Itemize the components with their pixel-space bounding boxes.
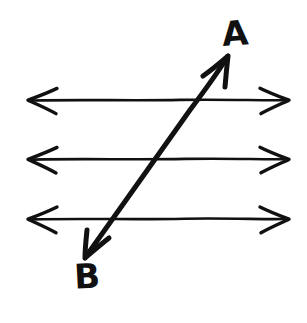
bottom-parallel-line [28, 207, 289, 233]
label-b: B [73, 258, 101, 293]
top-parallel-line-shaft [33, 100, 284, 101]
middle-parallel-line-shaft [33, 159, 284, 160]
top-parallel-line [28, 88, 289, 113]
figure-root: A B [0, 0, 307, 323]
geometry-diagram [0, 0, 307, 323]
transversal-line-shaft [87, 59, 226, 255]
transversal-line [85, 56, 228, 258]
bottom-parallel-line-shaft [33, 219, 284, 220]
label-a: A [221, 15, 250, 51]
